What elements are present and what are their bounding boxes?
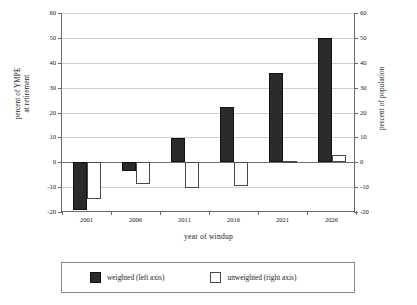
axis-tick-mark <box>354 113 358 114</box>
y-axis-label-left: percent of YMPE at retirement <box>14 34 31 154</box>
gridline <box>62 38 354 39</box>
y-axis-tick-label: 30 <box>360 84 367 91</box>
x-axis-tick-mark <box>111 211 112 215</box>
y-axis-tick-label: 20 <box>49 109 56 116</box>
gridline <box>62 113 354 114</box>
axis-tick-mark <box>58 187 62 188</box>
y-axis-tick-label: -10 <box>47 183 56 190</box>
y-axis-tick-label: 10 <box>360 133 367 140</box>
legend-swatch-unweighted-icon <box>210 272 221 283</box>
y-axis-tick-label: -20 <box>47 208 56 215</box>
axis-tick-mark <box>58 137 62 138</box>
axis-tick-mark <box>354 88 358 89</box>
bar-unweighted-2021 <box>283 161 297 163</box>
zero-line <box>62 162 354 163</box>
x-axis-tick-label: 2016 <box>227 216 240 223</box>
bar-unweighted-2006 <box>136 162 150 184</box>
axis-tick-mark <box>354 187 358 188</box>
x-axis-label: year of windup <box>61 232 356 241</box>
y-axis-tick-label: 60 <box>49 9 56 16</box>
chart-legend: weighted (left axis) unweighted (right a… <box>61 262 355 293</box>
bar-weighted-2001 <box>73 162 87 209</box>
x-axis-tick-mark <box>258 211 259 215</box>
x-axis-tick-mark <box>307 211 308 215</box>
y-axis-tick-label: 50 <box>49 34 56 41</box>
gridline <box>62 63 354 64</box>
axis-tick-mark <box>354 13 358 14</box>
legend-item-weighted: weighted (left axis) <box>90 272 164 283</box>
axis-tick-mark <box>354 162 358 163</box>
y-axis-tick-label: -10 <box>360 183 369 190</box>
bar-weighted-2011 <box>171 138 185 162</box>
bar-weighted-2016 <box>220 107 234 162</box>
axis-tick-mark <box>58 113 62 114</box>
y-axis-tick-label: 20 <box>360 109 367 116</box>
x-axis-tick-label: 2001 <box>80 216 93 223</box>
gridline <box>62 13 354 14</box>
axis-tick-mark <box>58 162 62 163</box>
axis-tick-mark <box>58 13 62 14</box>
plot-area: 6050403020100-10-20 6050403020100-10-20 … <box>61 13 355 212</box>
bar-unweighted-2001 <box>87 162 101 199</box>
bar-unweighted-2011 <box>185 162 199 188</box>
legend-item-unweighted: unweighted (right axis) <box>210 272 296 283</box>
bar-unweighted-2016 <box>234 162 248 186</box>
x-axis-tick-mark <box>62 211 63 215</box>
y-axis-tick-label: 10 <box>49 133 56 140</box>
x-axis-tick-label: 2011 <box>178 216 191 223</box>
y-axis-label-left-line1: percent of YMPE <box>14 68 22 120</box>
x-axis-tick-label: 2006 <box>129 216 142 223</box>
y-axis-tick-label: 40 <box>49 59 56 66</box>
y-axis-label-left-line2: at retirement <box>23 75 31 113</box>
gridline <box>62 187 354 188</box>
gridline <box>62 88 354 89</box>
bar-unweighted-2026 <box>332 155 346 162</box>
axis-tick-mark <box>58 38 62 39</box>
y-axis-tick-label: 40 <box>360 59 367 66</box>
axis-tick-mark <box>354 63 358 64</box>
y-axis-label-right: percent of population <box>378 38 387 158</box>
y-axis-tick-label: 0 <box>53 158 56 165</box>
y-axis-tick-label: 30 <box>49 84 56 91</box>
x-axis-tick-label: 2021 <box>276 216 289 223</box>
axis-tick-mark <box>354 38 358 39</box>
x-axis-tick-label: 2026 <box>325 216 338 223</box>
x-axis-tick-mark <box>356 211 357 215</box>
x-axis-tick-mark <box>209 211 210 215</box>
y-axis-tick-label: 50 <box>360 34 367 41</box>
legend-label-weighted: weighted (left axis) <box>107 273 164 282</box>
y-axis-tick-label: 0 <box>360 158 363 165</box>
axis-tick-mark <box>58 63 62 64</box>
chart-figure: percent of YMPE at retirement percent of… <box>0 0 417 305</box>
bar-weighted-2026 <box>318 38 332 162</box>
legend-swatch-weighted-icon <box>90 272 101 283</box>
bar-weighted-2006 <box>122 162 136 171</box>
x-axis-tick-mark <box>160 211 161 215</box>
y-axis-tick-label: -20 <box>360 208 369 215</box>
axis-tick-mark <box>58 88 62 89</box>
y-axis-tick-label: 60 <box>360 9 367 16</box>
legend-label-unweighted: unweighted (right axis) <box>227 273 296 282</box>
bar-weighted-2021 <box>269 73 283 162</box>
axis-tick-mark <box>354 137 358 138</box>
gridline <box>62 137 354 138</box>
